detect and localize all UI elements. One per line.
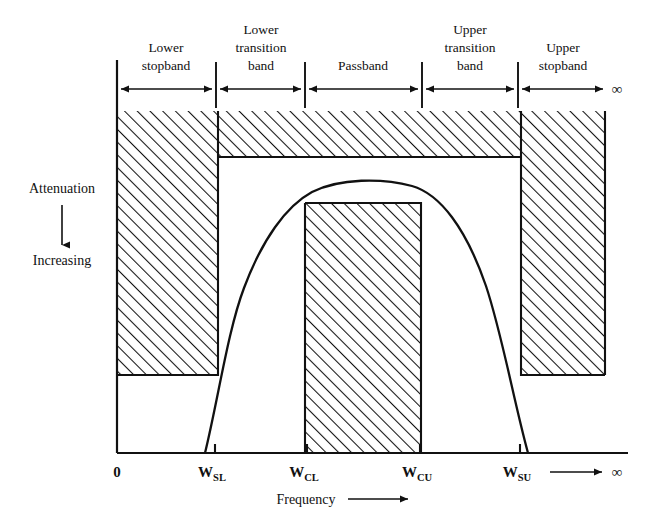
lower-stopband-mask (117, 111, 218, 375)
y-axis-label-attenuation: Attenuation (29, 181, 95, 196)
upper-stopband-mask (521, 111, 605, 375)
filter-specification-figure: Lower stopband Lower transition band Pas… (0, 0, 646, 520)
band-label-passband: Passband (338, 58, 388, 73)
band-label-upper-stopband-line2: stopband (539, 58, 588, 73)
band-label-lower-transition-line2: transition (236, 40, 287, 55)
band-label-lower-transition-line1: Lower (243, 22, 279, 37)
band-label-upper-transition-line3: band (457, 58, 483, 73)
x-tick-label-group: 0 WSL WCL WCU WSU (113, 464, 531, 483)
band-label-upper-transition-line1: Upper (453, 22, 487, 37)
band-label-group: Lower stopband Lower transition band Pas… (142, 22, 588, 73)
band-label-lower-transition-line3: band (248, 58, 274, 73)
band-label-upper-transition-line2: transition (445, 40, 496, 55)
transition-upper-mask (218, 111, 521, 157)
y-axis-annotation-group: Attenuation Increasing (29, 181, 95, 268)
top-infinity-symbol: ∞ (612, 81, 623, 97)
x-tick-label-w-su: WSU (503, 464, 532, 483)
x-tick-label-w-cl: WCL (289, 464, 319, 483)
y-axis-label-increasing: Increasing (33, 253, 91, 268)
figure-canvas: Lower stopband Lower transition band Pas… (0, 0, 646, 520)
band-label-lower-stopband-line1: Lower (148, 40, 184, 55)
x-tick-label-w-cu: WCU (402, 464, 433, 483)
band-label-lower-stopband-line2: stopband (142, 58, 191, 73)
x-tick-label-origin: 0 (113, 464, 121, 480)
x-axis-title: Frequency (276, 492, 335, 507)
passband-ripple-mask (305, 203, 421, 453)
band-label-upper-stopband-line1: Upper (546, 40, 580, 55)
forbidden-region-group (117, 111, 605, 453)
x-tick-label-w-sl: WSL (198, 464, 226, 483)
x-axis-infinity-symbol: ∞ (612, 464, 623, 480)
